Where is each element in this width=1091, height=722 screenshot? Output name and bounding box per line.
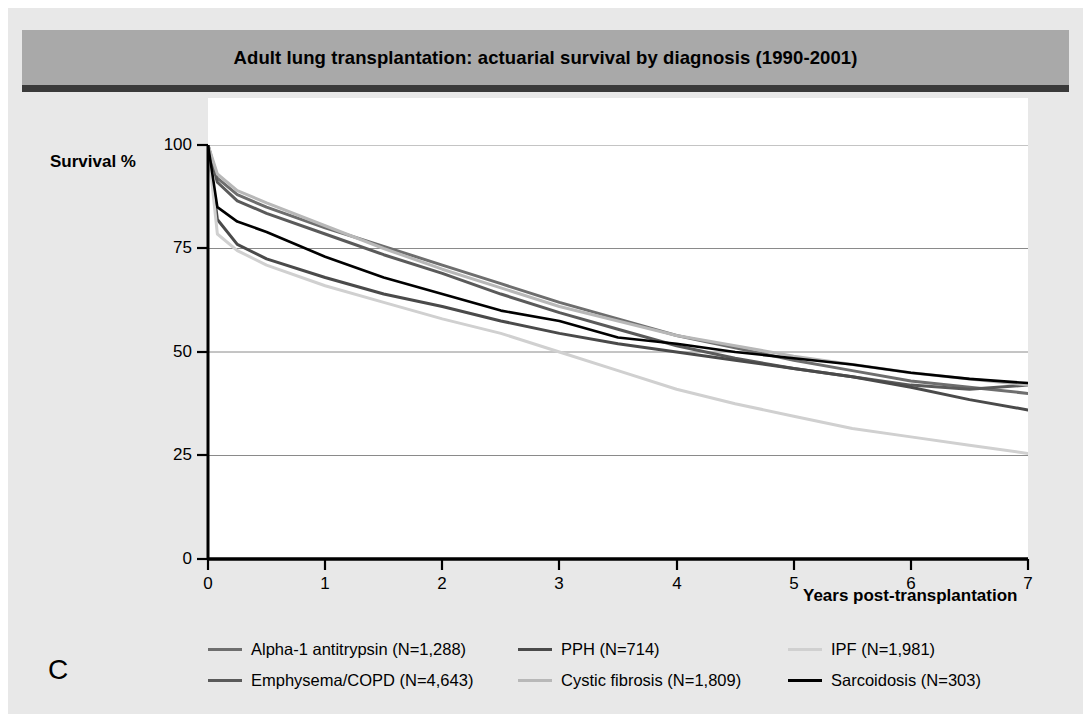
legend-item-emphysema-copd[interactable]: Emphysema/COPD (N=4,643) [208,671,518,690]
legend-label-sarcoidosis: Sarcoidosis (N=303) [831,671,981,690]
chart-legend: Alpha-1 antitrypsin (N=1,288) PPH (N=714… [208,634,1008,696]
legend-swatch-cystic-fibrosis [518,679,552,682]
x-tick-5: 5 [781,574,807,594]
legend-item-cystic-fibrosis[interactable]: Cystic fibrosis (N=1,809) [518,671,788,690]
legend-swatch-emphysema-copd [208,679,242,682]
legend-item-pph[interactable]: PPH (N=714) [518,640,788,659]
legend-label-pph: PPH (N=714) [561,640,660,659]
x-tick-4: 4 [664,574,690,594]
x-tick-3: 3 [546,574,572,594]
panel-letter: C [48,654,68,686]
legend-swatch-ipf [788,648,822,651]
legend-swatch-pph [518,648,552,651]
x-tick-0: 0 [195,574,221,594]
legend-label-alpha1-antitrypsin: Alpha-1 antitrypsin (N=1,288) [251,640,466,659]
legend-row-2: Emphysema/COPD (N=4,643) Cystic fibrosis… [208,665,1008,696]
legend-item-alpha1-antitrypsin[interactable]: Alpha-1 antitrypsin (N=1,288) [208,640,518,659]
legend-label-cystic-fibrosis: Cystic fibrosis (N=1,809) [561,671,741,690]
y-tick-50: 50 [148,342,192,362]
legend-swatch-sarcoidosis [788,679,822,682]
x-tick-7: 7 [1015,574,1041,594]
legend-row-1: Alpha-1 antitrypsin (N=1,288) PPH (N=714… [208,634,1008,665]
x-tick-1: 1 [312,574,338,594]
figure-panel: Adult lung transplantation: actuarial su… [8,8,1083,714]
x-tick-2: 2 [429,574,455,594]
legend-item-sarcoidosis[interactable]: Sarcoidosis (N=303) [788,671,1008,690]
legend-item-ipf[interactable]: IPF (N=1,981) [788,640,1008,659]
legend-label-emphysema-copd: Emphysema/COPD (N=4,643) [251,671,473,690]
y-tick-0: 0 [148,549,192,569]
y-tick-25: 25 [148,445,192,465]
y-axis-label: Survival % [50,152,136,172]
y-tick-75: 75 [148,238,192,258]
legend-swatch-alpha1-antitrypsin [208,648,242,651]
y-tick-100: 100 [148,135,192,155]
x-tick-6: 6 [898,574,924,594]
legend-label-ipf: IPF (N=1,981) [831,640,935,659]
